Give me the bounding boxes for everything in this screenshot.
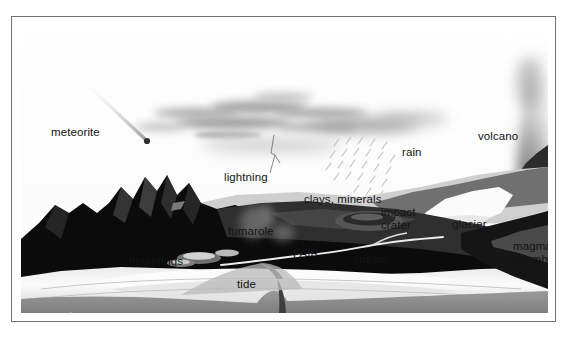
- label-meteorite: meteorite: [51, 126, 100, 139]
- label-magma-chamber-line2: chamber: [513, 253, 548, 266]
- label-volcano: volcano: [478, 130, 518, 143]
- label-impact-crater: impact crater: [381, 206, 415, 232]
- label-stream: stream: [353, 253, 389, 266]
- label-hotsprings: hotsprings: [129, 255, 183, 268]
- label-magma-chamber: magma chamber: [513, 240, 548, 266]
- label-impact-crater-line1: impact: [381, 206, 415, 219]
- label-clays-minerals: clays, minerals: [304, 193, 382, 206]
- clipped-caption-text: [52, 11, 522, 17]
- figure-frame: meteorite lightning rain volcano clays, …: [11, 16, 556, 322]
- label-crust: crust: [47, 310, 72, 313]
- label-rain: rain: [402, 146, 422, 159]
- label-tide: tide: [237, 278, 256, 291]
- label-glacier: glacier: [452, 218, 487, 231]
- label-lightning: lightning: [224, 171, 268, 184]
- scene-graphic: [21, 27, 548, 313]
- label-fair: FAIR: [293, 247, 319, 260]
- illustration-scene: meteorite lightning rain volcano clays, …: [21, 27, 548, 313]
- label-fumarole: fumarole: [228, 225, 274, 238]
- label-magma-chamber-line1: magma: [513, 240, 548, 253]
- label-impact-crater-line2: crater: [381, 219, 415, 232]
